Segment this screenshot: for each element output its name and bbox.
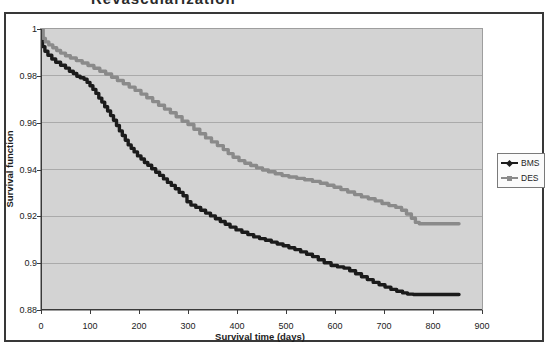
x-tick-mark [237,310,238,314]
y-tick-mark [37,123,41,124]
x-tick-label: 800 [413,321,453,331]
x-tick-mark [384,310,385,314]
legend-label-des: DES [521,174,538,183]
y-tick-label: 0.96 [6,118,37,128]
y-tick-label: 0.98 [6,71,37,81]
y-tick-label: 1 [6,24,37,34]
x-tick-mark [188,310,189,314]
x-tick-label: 300 [168,321,208,331]
y-tick-label: 0.9 [6,258,37,268]
y-tick-label: 0.88 [6,305,37,315]
x-tick-mark [335,310,336,314]
diamond-marker-icon [506,159,513,166]
y-tick-mark [37,170,41,171]
y-tick-label: 0.92 [6,211,37,221]
y-tick-mark [37,263,41,264]
x-tick-label: 100 [70,321,110,331]
x-tick-label: 0 [21,321,61,331]
legend: BMS DES [497,153,545,188]
square-marker-icon [507,176,512,181]
x-tick-label: 500 [266,321,306,331]
y-tick-mark [37,216,41,217]
y-tick-mark [37,76,41,77]
x-tick-mark [433,310,434,314]
x-tick-label: 900 [462,321,502,331]
survival-chart: Revascularization Survival function Surv… [0,0,551,345]
x-tick-mark [90,310,91,314]
bms-line-sample [501,159,518,168]
x-tick-mark [286,310,287,314]
x-tick-label: 700 [364,321,404,331]
x-axis-title: Survival time (days) [160,331,360,342]
plot-area [41,29,482,310]
des-line-sample [501,174,518,183]
series-des-curve [41,29,459,224]
y-tick-mark [37,29,41,30]
chart-title: Revascularization [91,0,236,7]
x-tick-mark [139,310,140,314]
x-tick-label: 400 [217,321,257,331]
legend-item-des: DES [501,172,544,184]
x-tick-label: 600 [315,321,355,331]
legend-label-bms: BMS [521,159,539,168]
x-tick-label: 200 [119,321,159,331]
plot-svg [41,29,482,310]
x-tick-mark [482,310,483,314]
legend-item-bms: BMS [501,157,544,169]
y-tick-label: 0.94 [6,165,37,175]
x-tick-mark [41,310,42,314]
